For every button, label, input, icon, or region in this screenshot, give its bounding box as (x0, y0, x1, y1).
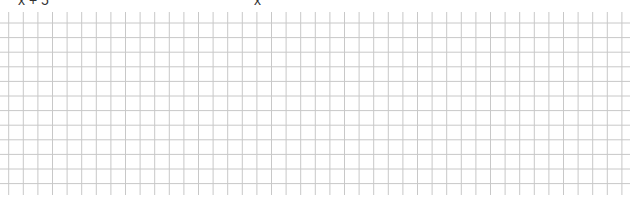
graph-paper-grid (0, 0, 634, 197)
